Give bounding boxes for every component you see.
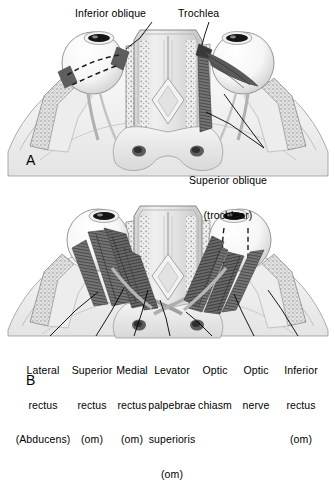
label-inferior-rectus-line1: Inferior: [270, 365, 332, 377]
label-inferior-rectus-om: Inferior rectus (om): [270, 342, 332, 457]
label-superior-oblique-line1: Superior oblique: [162, 175, 294, 187]
label-superior-oblique-line2: (trochlear): [162, 210, 294, 222]
label-inferior-rectus-line3: (om): [270, 434, 332, 446]
label-inferior-rectus-line2: rectus: [270, 400, 332, 412]
panel-letter-a: A: [26, 152, 35, 168]
label-levator-line4: (om): [138, 469, 206, 481]
label-trochlea: Trochlea: [178, 8, 219, 20]
leader-trochlea: [202, 22, 209, 45]
label-levator-line3: superioris: [138, 434, 206, 446]
label-inferior-oblique: Inferior oblique: [75, 8, 146, 20]
label-superior-oblique-trochlear: Superior oblique (trochlear): [162, 152, 294, 233]
